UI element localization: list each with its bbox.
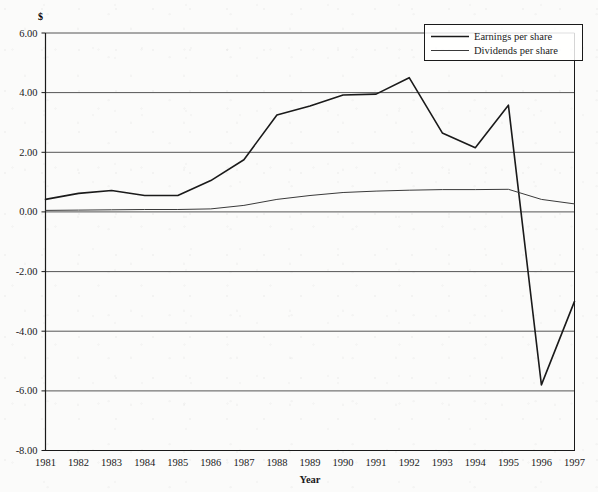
y-axis-tick-label: 0.00: [19, 206, 37, 217]
x-axis-tick-label: 1996: [531, 457, 552, 468]
x-axis-tick-label: 1984: [134, 457, 156, 468]
x-axis-tick-labels: 1981198219831984198519861987198819891990…: [35, 457, 585, 468]
y-axis-unit-label: $: [38, 11, 43, 22]
legend-label-earnings-per-share: Earnings per share: [474, 31, 552, 42]
x-axis-tick-label: 1993: [432, 457, 453, 468]
line-chart: $ 6.004.002.000.00-2.00-4.00-6.00-8.00 1…: [0, 0, 598, 492]
y-axis-tick-label: -4.00: [16, 326, 38, 337]
gridlines: [46, 33, 575, 391]
y-axis-tick-label: -8.00: [16, 445, 38, 456]
y-axis-tick-label: -2.00: [16, 266, 38, 277]
x-axis-tick-label: 1985: [167, 457, 188, 468]
series-lines: [46, 78, 575, 385]
y-axis-tick-label: -6.00: [16, 385, 38, 396]
x-axis-tick-label: 1995: [498, 457, 519, 468]
y-axis-tick-label: 6.00: [19, 28, 37, 39]
x-axis-tick-label: 1991: [366, 457, 387, 468]
x-axis-tick-label: 1981: [35, 457, 56, 468]
legend: Earnings per share Dividends per share: [425, 25, 583, 61]
y-axis-tick-label: 2.00: [19, 147, 37, 158]
x-axis-tick-label: 1989: [300, 457, 321, 468]
x-axis-tick-label: 1983: [101, 457, 122, 468]
x-axis-tick-label: 1987: [233, 457, 254, 468]
chart-page: $ 6.004.002.000.00-2.00-4.00-6.00-8.00 1…: [0, 0, 598, 492]
series-line-earnings-per-share: [46, 78, 575, 385]
x-axis-tick-label: 1997: [564, 457, 585, 468]
x-axis-title: Year: [300, 474, 321, 485]
x-axis-tick-label: 1992: [399, 457, 420, 468]
x-axis-tick-label: 1986: [200, 457, 221, 468]
legend-label-dividends-per-share: Dividends per share: [474, 45, 558, 56]
y-axis-tick-labels: 6.004.002.000.00-2.00-4.00-6.00-8.00: [16, 28, 46, 457]
y-axis-tick-label: 4.00: [19, 87, 37, 98]
x-axis-tick-label: 1994: [465, 457, 487, 468]
x-axis-tick-label: 1990: [333, 457, 354, 468]
x-axis-tick-label: 1988: [266, 457, 287, 468]
x-axis-tick-label: 1982: [68, 457, 89, 468]
